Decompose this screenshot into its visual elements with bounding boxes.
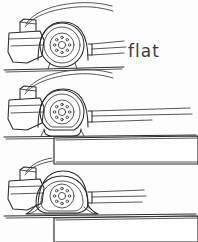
rocker-panel — [88, 192, 92, 203]
lug-nut — [55, 105, 58, 108]
wheel-arch — [38, 22, 88, 60]
rocker-line-top — [92, 190, 144, 192]
step-block-lower — [54, 216, 198, 242]
lug-nut — [66, 189, 69, 192]
hub-cap — [58, 41, 65, 48]
rocker-line-mid — [92, 114, 192, 116]
hub-cap — [58, 192, 65, 199]
tire-contact-right — [81, 130, 84, 136]
panel-wheel-normal — [4, 3, 126, 72]
hub-cap — [58, 108, 65, 115]
lug-nut — [68, 111, 71, 114]
lug-nut — [68, 195, 71, 198]
rocker-line-mid — [92, 196, 146, 197]
lug-nut — [66, 200, 69, 203]
lug-nut-group — [53, 36, 71, 54]
rocker-panel — [88, 44, 92, 55]
lug-nut — [53, 44, 56, 47]
lug-nut — [53, 111, 56, 114]
lug-nut — [55, 116, 58, 119]
lug-nut — [61, 51, 64, 54]
lug-nut — [66, 105, 69, 108]
lug-nut — [55, 189, 58, 192]
lug-nut — [55, 38, 58, 41]
lug-nut — [61, 36, 64, 39]
wheel-arch — [38, 89, 88, 127]
flat-label: flat — [128, 41, 160, 61]
lug-nut — [61, 187, 64, 190]
rocker-panel — [88, 111, 92, 122]
lug-nut — [68, 44, 71, 47]
lug-nut — [55, 49, 58, 52]
lug-nut — [66, 49, 69, 52]
front-fender — [8, 179, 44, 210]
hood-sweep-line-1 — [26, 70, 112, 91]
panel-wheel-fully-flat — [4, 158, 196, 218]
lug-nut — [53, 195, 56, 198]
step-block-upper-outline — [54, 136, 198, 164]
rocker-line-top — [92, 41, 124, 44]
tire-sidewall — [44, 94, 80, 127]
lug-nut — [61, 202, 64, 205]
tire-sidewall — [44, 27, 80, 63]
lug-nut-group — [53, 187, 71, 205]
hood-sweep-line-1 — [26, 3, 112, 24]
lug-nut — [66, 116, 69, 119]
tire-contact-left — [48, 63, 50, 69]
rocker-line-mid — [92, 47, 126, 49]
lug-nut-group — [53, 103, 71, 121]
tire-sidewall — [41, 181, 83, 211]
lug-nut — [55, 200, 58, 203]
lug-nut — [61, 118, 64, 121]
lug-nut — [61, 103, 64, 106]
rocker-line-bottom — [92, 120, 152, 122]
lug-nut — [66, 38, 69, 41]
step-block-upper — [54, 136, 198, 164]
rocker-line-bottom — [92, 202, 142, 203]
figure-canvas: flat — [0, 0, 198, 242]
rocker-line-bottom — [92, 53, 124, 55]
tire-outer — [40, 23, 84, 67]
panel-wheel-partly-flat — [4, 70, 196, 139]
tire-deflection-figure: flat — [0, 0, 198, 242]
rocker-line-top — [92, 108, 190, 111]
tire-contact-left — [41, 130, 44, 136]
